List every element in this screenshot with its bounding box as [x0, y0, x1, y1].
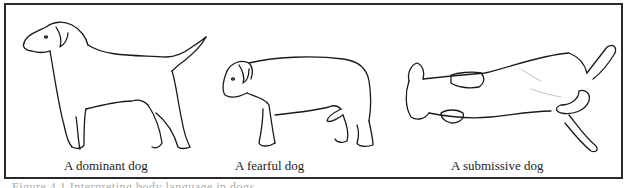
panel-dominant: A dominant dog — [6, 5, 216, 177]
submissive-dog-illustration — [401, 33, 621, 153]
fearful-dog-illustration — [213, 53, 383, 153]
caption-submissive: A submissive dog — [451, 158, 543, 174]
panel-fearful: A fearful dog — [211, 5, 401, 177]
partial-footer-line: Figure 4.1 Interpreting body language in… — [12, 181, 312, 188]
dominant-dog-illustration — [16, 13, 216, 153]
panel-submissive: A submissive dog — [401, 5, 625, 177]
partial-footer-text: Figure 4.1 Interpreting body language in… — [12, 181, 312, 188]
figure-frame: A dominant dog A fearful dog — [4, 3, 623, 179]
caption-fearful: A fearful dog — [235, 158, 304, 174]
caption-dominant: A dominant dog — [64, 158, 148, 174]
